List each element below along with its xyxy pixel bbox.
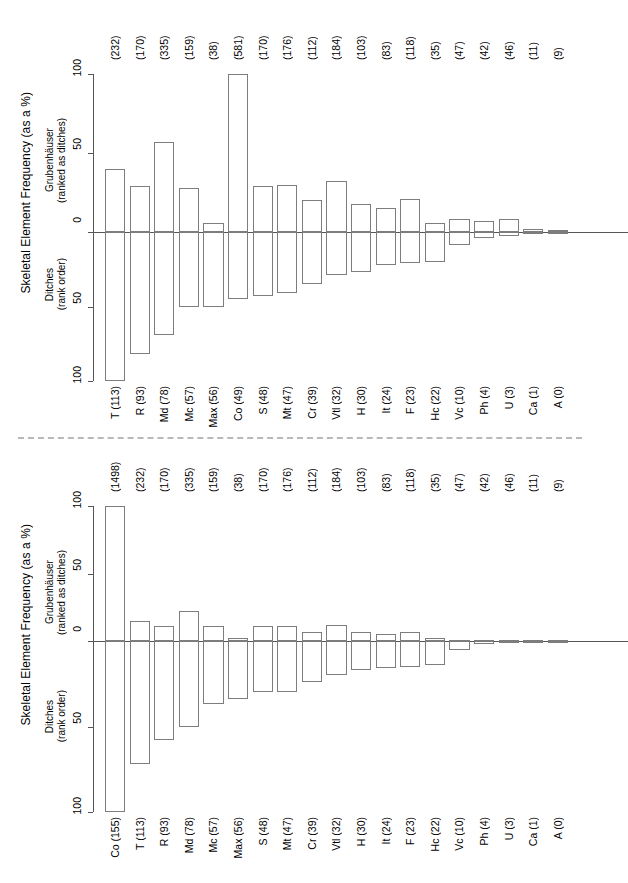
bar-count-label: (170): [257, 442, 269, 492]
axis-tick: [88, 153, 93, 154]
bar-category-label: H (30): [355, 386, 367, 415]
bar-category-label: Cr (39): [306, 817, 318, 850]
bar-category-label: Mc (57): [183, 386, 195, 422]
bar-count-label: (170): [257, 0, 269, 60]
axis-tick: [88, 506, 93, 507]
chart-panel-bottom: Skeletal Element Frequency (as a %)Grube…: [0, 442, 600, 883]
bar-grubenhauser: [277, 185, 297, 232]
bar-grubenhauser: [277, 626, 297, 641]
bar-ditches: [277, 641, 297, 692]
bar-grubenhauser: [302, 200, 322, 232]
bar-grubenhauser: [474, 221, 494, 232]
bar-category-label: It (24): [380, 386, 392, 413]
chart-panel-top: Skeletal Element Frequency (as a %)Grube…: [0, 0, 600, 441]
bar-category-label: H (30): [355, 817, 367, 846]
axis-title-frequency: Skeletal Element Frequency (as a %): [20, 92, 32, 294]
bar-grubenhauser: [351, 632, 371, 641]
bar-grubenhauser: [203, 223, 223, 232]
bar-count-label: (11): [527, 0, 539, 60]
bar-ditches: [130, 641, 150, 764]
bar-category-label: T (113): [134, 817, 146, 850]
bar-count-label: (1498): [109, 442, 121, 492]
bar-grubenhauser: [400, 632, 420, 641]
bar-count-label: (83): [380, 442, 392, 492]
bar-count-label: (184): [330, 442, 342, 492]
bar-count-label: (9): [552, 0, 564, 60]
group-label-grubenhauser-line2: (ranked as ditches): [56, 118, 68, 203]
bar-count-label: (42): [478, 442, 490, 492]
bar-ditches: [523, 641, 543, 643]
bar-category-label: Vc (10): [453, 386, 465, 420]
bar-category-label: F (23): [404, 817, 416, 845]
bar-count-label: (9): [552, 442, 564, 492]
group-label-ditches: Ditches(rank order): [44, 690, 68, 742]
bar-ditches: [351, 232, 371, 272]
bar-ditches: [376, 232, 396, 265]
axis-tick-label: 100: [71, 59, 83, 77]
bar-count-label: (112): [306, 442, 318, 492]
axis-tick-label: 0: [71, 217, 83, 223]
bar-ditches: [130, 232, 150, 354]
bar-ditches: [179, 641, 199, 727]
axis-title-frequency: Skeletal Element Frequency (as a %): [20, 524, 32, 726]
bar-grubenhauser: [253, 186, 273, 232]
bar-grubenhauser: [154, 626, 174, 641]
bar-grubenhauser: [179, 188, 199, 232]
bar-ditches: [376, 641, 396, 668]
bar-count-label: (35): [429, 0, 441, 60]
axis-tick: [88, 74, 93, 75]
bar-count-label: (103): [355, 0, 367, 60]
bar-ditches: [425, 641, 445, 665]
bar-count-label: (11): [527, 442, 539, 492]
axis-tick-label: 50: [71, 292, 83, 304]
bar-grubenhauser: [253, 626, 273, 641]
bar-count-label: (335): [158, 0, 170, 60]
bar-ditches: [179, 232, 199, 307]
bar-count-label: (38): [232, 442, 244, 492]
bar-count-label: (83): [380, 0, 392, 60]
bar-category-label: A (0): [552, 386, 564, 408]
bar-category-label: Vc (10): [453, 817, 465, 851]
bar-ditches: [154, 232, 174, 335]
bar-ditches: [499, 641, 519, 643]
bar-ditches: [228, 641, 248, 699]
bar-category-label: Mc (57): [207, 817, 219, 853]
bar-count-label: (35): [429, 442, 441, 492]
bar-grubenhauser: [105, 506, 125, 641]
bar-category-label: It (24): [380, 817, 392, 844]
bar-ditches: [499, 232, 519, 236]
axis-tick: [88, 574, 93, 575]
bar-count-label: (118): [404, 0, 416, 60]
bar-ditches: [474, 232, 494, 238]
axis-tick-label: 50: [71, 712, 83, 724]
bar-count-label: (581): [232, 0, 244, 60]
axis-tick: [88, 727, 93, 728]
value-axis: [93, 506, 94, 812]
bar-ditches: [253, 641, 273, 692]
bar-count-label: (159): [183, 0, 195, 60]
group-label-ditches-line1: Ditches: [44, 690, 56, 742]
bar-category-label: F (23): [404, 386, 416, 414]
bar-count-label: (46): [503, 442, 515, 492]
bar-grubenhauser: [425, 223, 445, 232]
bar-ditches: [548, 641, 568, 643]
bar-category-label: Max (56): [207, 386, 219, 427]
bar-category-label: Cr (39): [306, 386, 318, 419]
group-label-grubenhauser-line1: Grubenhäuser: [44, 550, 56, 635]
bar-category-label: Mt (47): [281, 386, 293, 419]
bar-count-label: (232): [134, 442, 146, 492]
panel-divider: [18, 437, 582, 439]
bar-count-label: (38): [207, 0, 219, 60]
bar-ditches: [523, 232, 543, 234]
bar-ditches: [302, 232, 322, 284]
bar-category-label: T (113): [109, 386, 121, 419]
bar-count-label: (42): [478, 0, 490, 60]
bar-count-label: (232): [109, 0, 121, 60]
bar-category-label: U (3): [503, 386, 515, 409]
bar-category-label: Vtl (32): [330, 817, 342, 851]
bar-category-label: Md (78): [158, 386, 170, 422]
bar-ditches: [326, 641, 346, 675]
bar-count-label: (176): [281, 442, 293, 492]
group-label-ditches-line2: (rank order): [56, 258, 68, 310]
bar-category-label: A (0): [552, 817, 564, 839]
